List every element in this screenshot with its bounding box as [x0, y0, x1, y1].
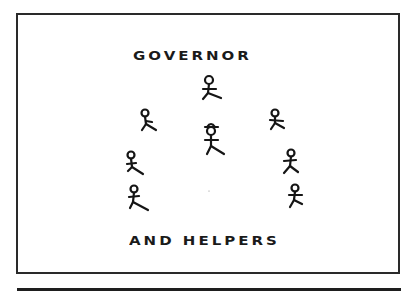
- stick-figure-helper-right-upper-icon: [270, 110, 284, 130]
- stick-figure-governor-icon: [203, 76, 221, 99]
- stick-figure-helper-right-mid-icon: [284, 150, 298, 174]
- ink-speck: [208, 190, 209, 191]
- stick-figure-helper-left-mid-icon: [127, 152, 143, 175]
- stick-figures-group: [0, 0, 414, 291]
- stick-figure-helper-right-low-icon: [289, 185, 302, 208]
- stick-figure-helper-left-upper-icon: [142, 110, 157, 131]
- stick-figure-helper-left-low-icon: [129, 186, 148, 211]
- stick-figure-center-hat-icon: [205, 124, 224, 154]
